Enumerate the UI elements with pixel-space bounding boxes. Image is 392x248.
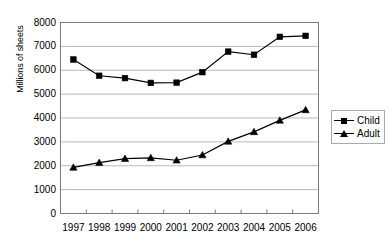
legend-item-child: Child	[334, 114, 381, 127]
chart-legend: Child Adult	[331, 110, 385, 144]
triangle-marker-icon	[334, 128, 354, 139]
legend-label-child: Child	[354, 115, 380, 126]
line-chart: Millions of sheets 800070006000500040003…	[0, 0, 392, 248]
square-marker-icon	[334, 115, 354, 126]
legend-item-adult: Adult	[334, 127, 381, 140]
x-tick-label: 2006	[291, 222, 321, 233]
legend-label-adult: Adult	[354, 128, 380, 139]
